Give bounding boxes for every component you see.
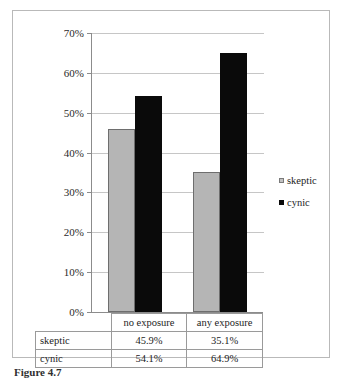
- y-axis-tick: [87, 272, 92, 273]
- y-axis-tick: [87, 33, 92, 34]
- gridline: [92, 33, 264, 34]
- y-axis-tick-label: 70%: [64, 27, 84, 39]
- gray-square-marker-icon: [279, 178, 284, 183]
- table-rowlabel-cynic: cynic: [36, 350, 112, 368]
- y-axis-tick-label: 30%: [64, 186, 84, 198]
- legend-label-skeptic: skeptic: [287, 175, 317, 186]
- legend-item-cynic[interactable]: cynic: [279, 197, 317, 208]
- y-axis-tick-label: 10%: [64, 266, 84, 278]
- y-axis-tick: [87, 73, 92, 74]
- table-cell-skeptic-no-exposure: 45.9%: [111, 332, 187, 350]
- bar-cynic-any-exposure[interactable]: [220, 53, 247, 312]
- chart-plot-area: 0%10%20%30%40%50%60%70%: [91, 33, 263, 313]
- bar-cynic-no-exposure[interactable]: [135, 96, 162, 312]
- table-rowlabel-skeptic: skeptic: [36, 332, 112, 350]
- legend-label-cynic: cynic: [287, 197, 310, 208]
- table-cell-cynic-no-exposure: 54.1%: [111, 350, 187, 368]
- y-axis-tick-label: 40%: [64, 147, 84, 159]
- table-header-no-exposure: no exposure: [111, 314, 187, 332]
- table-header-any-exposure: any exposure: [187, 314, 263, 332]
- y-axis-tick: [87, 192, 92, 193]
- table-corner-cell: [36, 314, 112, 332]
- y-axis-tick-label: 20%: [64, 226, 84, 238]
- black-square-marker-icon: [279, 200, 284, 205]
- table-row: cynic 54.1% 64.9%: [36, 350, 263, 368]
- bar-skeptic-no-exposure[interactable]: [108, 129, 135, 312]
- table-cell-cynic-any-exposure: 64.9%: [187, 350, 263, 368]
- legend-item-skeptic[interactable]: skeptic: [279, 175, 317, 186]
- table-row: skeptic 45.9% 35.1%: [36, 332, 263, 350]
- y-axis-tick: [87, 232, 92, 233]
- chart-legend: skeptic cynic: [279, 175, 317, 219]
- y-axis-tick: [87, 153, 92, 154]
- y-axis-tick-label: 50%: [64, 107, 84, 119]
- figure-caption: Figure 4.7: [14, 366, 334, 378]
- bar-skeptic-any-exposure[interactable]: [193, 172, 220, 312]
- y-axis-tick: [87, 113, 92, 114]
- table-cell-skeptic-any-exposure: 35.1%: [187, 332, 263, 350]
- table-header-row: no exposure any exposure: [36, 314, 263, 332]
- y-axis-tick-label: 60%: [64, 67, 84, 79]
- figure-frame: 0%10%20%30%40%50%60%70% skeptic cynic no…: [12, 10, 330, 358]
- data-table: no exposure any exposure skeptic 45.9% 3…: [35, 313, 263, 368]
